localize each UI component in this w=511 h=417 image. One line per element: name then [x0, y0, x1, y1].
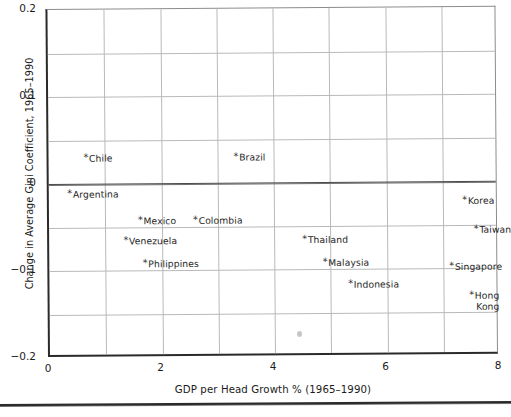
data-point-malaysia: *Malaysia [323, 256, 370, 268]
asterisk-marker-icon: * [143, 257, 148, 268]
data-point-label: Taiwan [479, 223, 511, 234]
gridline-horizontal [49, 224, 496, 228]
data-point-indonesia: *Indonesia [348, 277, 399, 289]
data-point-label: Venezuela [129, 235, 177, 246]
gridline-horizontal [50, 311, 497, 315]
asterisk-marker-icon: * [449, 260, 454, 271]
data-point-singapore: *Singapore [449, 260, 502, 272]
data-point-label: Chile [89, 152, 113, 163]
y-axis-tick-label: −0.2 [11, 350, 37, 362]
scatter-plot-figure: 0.20.10−0.1−0.2 Change in Average Gini C… [0, 0, 511, 417]
gridline-vertical [104, 10, 108, 355]
gridline-vertical [329, 8, 333, 353]
x-axis-tick-label: 4 [261, 360, 285, 372]
data-point-korea: *Korea [462, 194, 494, 206]
x-axis-tick-label: 2 [149, 361, 173, 373]
gridline-horizontal [49, 268, 496, 272]
scan-speck [297, 331, 302, 337]
gridline-horizontal [48, 94, 495, 98]
data-point-chile: *Chile [83, 151, 112, 163]
data-point-label: Korea [468, 195, 495, 206]
data-point-mexico: *Mexico [138, 214, 176, 226]
asterisk-marker-icon: * [302, 233, 307, 244]
page-edge-rule [0, 401, 511, 407]
data-point-argentina: *Argentina [67, 188, 118, 200]
gridline-vertical [216, 9, 220, 354]
y-axis-tick-labels: 0.20.10−0.1−0.2 [0, 0, 44, 417]
asterisk-marker-icon: * [234, 150, 239, 161]
asterisk-marker-icon: * [323, 256, 328, 267]
asterisk-marker-icon: * [123, 234, 128, 245]
y-axis-tick-label: 0.2 [19, 2, 36, 14]
asterisk-marker-icon: * [462, 194, 467, 205]
x-axis-title: GDP per Head Growth % (1965–1990) [48, 384, 498, 395]
data-point-label: Colombia [199, 214, 243, 225]
plot-area: *Chile*Brazil*Argentina*Korea*Mexico*Col… [45, 6, 498, 357]
data-point-label: Philippines [148, 258, 199, 269]
data-point-label: Brazil [239, 151, 265, 162]
data-point-label: Indonesia [354, 278, 399, 289]
gridline-horizontal [48, 137, 495, 141]
gridline-vertical [385, 8, 389, 353]
gridline-vertical [272, 8, 276, 353]
data-point-brazil: *Brazil [234, 150, 266, 162]
data-point-venezuela: *Venezuela [123, 234, 177, 246]
data-point-labels: *Chile*Brazil*Argentina*Korea*Mexico*Col… [47, 7, 494, 10]
vertical-gridlines [47, 7, 494, 10]
gridline-horizontal [48, 50, 495, 54]
asterisk-marker-icon: * [469, 289, 474, 300]
data-point-thailand: *Thailand [302, 232, 348, 244]
y-axis-title: Change in Average Gini Coefficient, 1965… [24, 49, 35, 299]
asterisk-marker-icon: * [67, 188, 72, 199]
x-axis-tick-label: 8 [486, 359, 510, 371]
data-point-taiwan: *Taiwan [474, 222, 511, 234]
x-axis-tick-label: 6 [374, 360, 398, 372]
data-point-label: Hong Kong [475, 290, 500, 312]
zero-line [49, 181, 496, 185]
data-point-hong-kong: *Hong Kong [457, 289, 499, 312]
data-point-label: Thailand [308, 233, 348, 244]
asterisk-marker-icon: * [193, 213, 198, 224]
data-point-philippines: *Philippines [143, 257, 199, 269]
data-point-label: Malaysia [328, 257, 369, 268]
gridline-vertical [160, 9, 164, 354]
data-point-label: Singapore [455, 261, 502, 272]
x-axis-tick-label: 0 [36, 362, 60, 374]
gridline-vertical [441, 7, 445, 352]
data-point-label: Argentina [73, 189, 119, 200]
data-point-label: Mexico [143, 215, 176, 226]
data-point-colombia: *Colombia [193, 213, 243, 225]
horizontal-gridlines [47, 7, 494, 10]
